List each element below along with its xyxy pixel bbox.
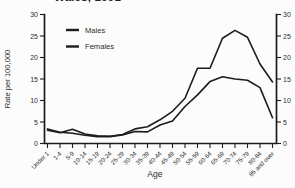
males-series-line <box>48 30 273 136</box>
plot-area: 005510101515202025253030Under 11-45-910-… <box>30 11 291 178</box>
y-tick-label-left: 30 <box>30 11 38 18</box>
chart-container: Wales, 1991 Rate per 100,000 Age Males F… <box>0 0 295 188</box>
y-tick-label-right: 5 <box>283 119 287 126</box>
females-series-line <box>48 77 273 137</box>
y-tick-label-right: 20 <box>283 54 291 61</box>
y-tick-label-right: 30 <box>283 11 291 18</box>
y-tick-label-left: 0 <box>34 140 38 147</box>
y-axis-label: Rate per 100,000 <box>3 50 12 109</box>
legend-males-label: Males <box>85 26 105 35</box>
y-tick-label-right: 15 <box>283 76 291 83</box>
y-tick-label-right: 25 <box>283 33 291 40</box>
legend-females-label: Females <box>85 42 114 51</box>
y-tick-label-left: 15 <box>30 76 38 83</box>
legend: Males Females <box>66 26 114 52</box>
y-tick-label-left: 20 <box>30 54 38 61</box>
age-rate-line-chart: Rate per 100,000 Age Males Females 00551… <box>0 0 295 188</box>
y-tick-label-left: 25 <box>30 33 38 40</box>
y-tick-label-left: 5 <box>34 119 38 126</box>
y-tick-label-right: 10 <box>283 97 291 104</box>
x-tick-label: Under 1 <box>30 149 51 170</box>
x-axis-label: Age <box>147 169 163 179</box>
x-tick-label: 1-4 <box>51 149 63 161</box>
y-tick-label-right: 0 <box>283 140 287 147</box>
y-tick-label-left: 10 <box>30 97 38 104</box>
